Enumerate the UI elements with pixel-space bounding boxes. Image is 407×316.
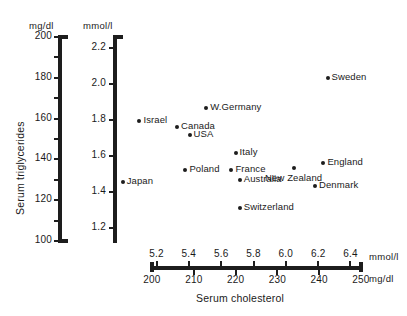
data-point <box>183 168 187 172</box>
x-axis-mmol-tick <box>349 261 351 267</box>
x-axis-mmol-tick-label: 5.2 <box>141 248 173 259</box>
data-point-label: USA <box>194 128 214 139</box>
x-axis-right-cap <box>359 262 363 272</box>
x-axis-mmol-tick <box>285 261 287 267</box>
x-axis-mgdl-tick-label: 200 <box>135 274 169 285</box>
y-axis-secondary-tick-label: 1.4 <box>74 185 106 196</box>
y-axis-primary-tick <box>54 36 61 38</box>
y-axis-primary-tick <box>54 56 59 58</box>
y-axis-primary-tick <box>54 199 61 201</box>
data-point-label: Italy <box>240 146 258 157</box>
y-axis-primary-tick-label: 100 <box>20 234 52 245</box>
y-axis-secondary-tick <box>109 227 116 229</box>
x-axis-title: Serum cholesterol <box>196 292 284 304</box>
data-point <box>188 133 192 137</box>
x-axis-mmol-tick-label: 6.2 <box>302 248 334 259</box>
x-axis-mmol-tick <box>188 261 190 267</box>
data-point-label: Australia <box>244 173 282 184</box>
y-axis-primary-tick <box>54 220 59 222</box>
y-axis-primary-tick-label: 160 <box>20 112 52 123</box>
y-axis-secondary-tick-label: 2.0 <box>74 77 106 88</box>
y-axis-primary-tick <box>54 138 59 140</box>
y-axis-secondary-tick-label: 1.8 <box>74 113 106 124</box>
data-point-label: Switzerland <box>244 201 294 212</box>
data-point <box>175 125 179 129</box>
y-axis-primary-tick-label: 200 <box>20 30 52 41</box>
data-point-label: Sweden <box>332 71 367 82</box>
x-axis-mmol-tick-label: 6.0 <box>270 248 302 259</box>
y-axis-primary-tick <box>54 240 61 242</box>
x-axis-mgdl-tick-label: 230 <box>260 274 294 285</box>
data-point <box>292 166 296 170</box>
y-axis-secondary-line <box>113 35 117 243</box>
x-axis-mmol-tick <box>220 261 222 267</box>
data-point <box>121 180 125 184</box>
x-axis-mmol-tick-label: 5.4 <box>173 248 205 259</box>
y-axis-primary-tick <box>54 77 61 79</box>
y-axis-primary-tick <box>54 158 61 160</box>
x-axis-mmol-tick <box>317 261 319 267</box>
data-point-label: Israel <box>143 114 167 125</box>
x-axis-left-cap <box>150 262 154 272</box>
data-point <box>229 168 233 172</box>
data-point <box>321 161 325 165</box>
y-axis-secondary-tick <box>109 155 116 157</box>
y-axis-secondary-unit-label: mmol/l <box>83 20 113 31</box>
data-point-label: Denmark <box>319 179 358 190</box>
y-axis-secondary-tick-label: 1.2 <box>74 221 106 232</box>
data-point <box>204 106 208 110</box>
x-axis-mgdl-tick-label: 240 <box>302 274 336 285</box>
data-point <box>238 206 242 210</box>
y-axis-primary-tick-label: 120 <box>20 193 52 204</box>
data-point <box>238 178 242 182</box>
x-axis-mmol-tick <box>253 261 255 267</box>
data-point <box>313 184 317 188</box>
x-axis-mmol-tick-label: 5.6 <box>205 248 237 259</box>
x-axis-mgdl-tick-label: 220 <box>219 274 253 285</box>
y-axis-secondary-tick-label: 1.6 <box>74 149 106 160</box>
data-point <box>326 76 330 80</box>
data-point <box>137 119 141 123</box>
x-axis-mmol-tick-label: 6.4 <box>334 248 366 259</box>
y-axis-primary-tick <box>54 179 59 181</box>
data-point-label: Poland <box>189 163 219 174</box>
y-axis-primary-tick-label: 180 <box>20 71 52 82</box>
data-point-label: England <box>327 156 363 167</box>
y-axis-secondary-tick-label: 2.2 <box>74 41 106 52</box>
y-axis-secondary-tick <box>109 119 116 121</box>
x-axis-line <box>150 266 363 270</box>
y-axis-primary-tick-label: 140 <box>20 152 52 163</box>
x-axis-mmol-tick-label: 5.8 <box>238 248 270 259</box>
x-axis-secondary-unit-label: mmol/l <box>369 251 399 262</box>
x-axis-mgdl-tick-label: 210 <box>177 274 211 285</box>
y-axis-primary-tick <box>54 118 61 120</box>
x-axis-mmol-tick <box>156 261 158 267</box>
y-axis-secondary-tick <box>109 47 116 49</box>
y-axis-secondary-tick <box>109 83 116 85</box>
data-point-label: W.Germany <box>210 101 261 112</box>
scatter-chart: mg/dl mmol/l Serum triglycerides 2001801… <box>0 0 407 316</box>
y-axis-primary-tick <box>54 97 59 99</box>
y-axis-secondary-top-cap <box>113 35 123 39</box>
y-axis-secondary-tick <box>109 191 116 193</box>
x-axis-primary-unit-label: mg/dl <box>369 273 394 284</box>
data-point <box>234 151 238 155</box>
data-point-label: Japan <box>127 175 153 186</box>
